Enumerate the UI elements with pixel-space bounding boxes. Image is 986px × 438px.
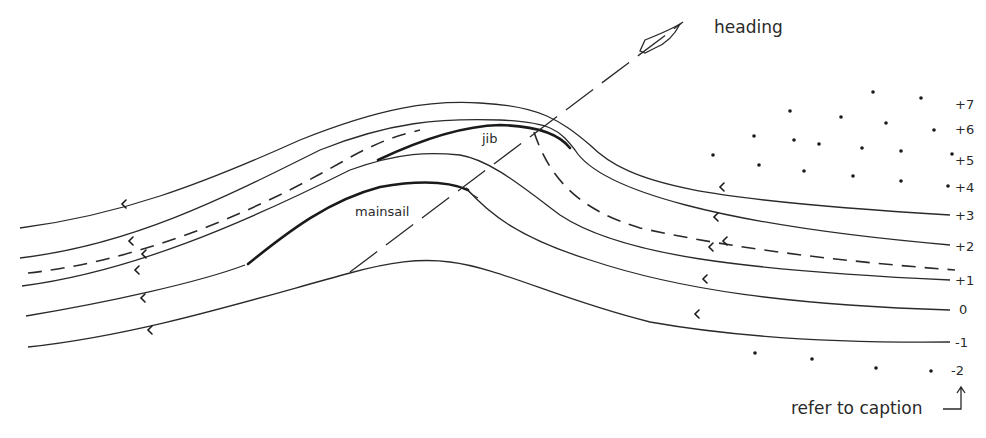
caption-arrow [943,387,965,409]
streamline-label-plus-7: +7 [955,98,974,111]
streamline-plus-1 [22,154,950,286]
jib-label: jib [482,132,497,145]
flow-arrows-right [695,183,727,318]
streamline-label-zero: 0 [959,303,967,316]
streamline-dashed [28,130,420,273]
streamline-label-minus-1: -1 [955,336,968,349]
streamline-dashed-aft [534,132,955,270]
mainsail-leech [466,188,478,198]
streamline-label-plus-6: +6 [955,123,974,136]
sail-flow-diagram: heading jib mainsail +7 +6 +5 +4 +3 +2 +… [0,0,986,438]
streamline-plus-3 [20,102,950,228]
streamline-zero [26,188,950,316]
streamline-label-plus-5: +5 [955,154,974,167]
streamline-label-plus-2: +2 [955,240,974,253]
streamline-label-plus-1: +1 [955,274,974,287]
streamline-label-minus-2: -2 [951,364,964,377]
heading-label: heading [714,19,783,36]
mainsail-label: mainsail [355,205,409,218]
streamline-label-plus-3: +3 [955,209,974,222]
streamline-minus-1 [28,260,950,347]
streamline-label-plus-4: +4 [955,181,974,194]
heading-line [350,22,683,272]
diagram-graphics [0,0,986,438]
caption-reference: refer to caption [791,400,923,417]
free-stream-dots [711,90,954,373]
flow-arrows-left [122,200,152,334]
